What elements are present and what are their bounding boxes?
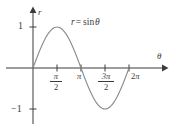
x-tick-label-two-pi-symbol: π	[135, 71, 139, 81]
sine-curve-figure: r θ 1 −1 r=sin θ π 2 π 3π 2 2π	[0, 0, 176, 130]
x-axis-label: θ	[157, 52, 161, 61]
x-tick-label-half-pi-numerator: π	[50, 72, 62, 81]
x-tick-label-two-pi: 2π	[131, 72, 140, 81]
x-axis-arrowhead	[162, 65, 169, 72]
x-tick-label-half-pi: π 2	[50, 72, 62, 92]
x-axis	[6, 65, 169, 72]
x-tick-label-three-half-pi-numerator: 3π	[98, 72, 114, 81]
equation-argument: θ	[95, 17, 100, 27]
y-axis	[30, 7, 37, 125]
x-tick-label-half-pi-denominator: 2	[50, 83, 62, 92]
y-axis-label: r	[38, 8, 42, 17]
y-axis-arrowhead	[30, 7, 37, 14]
x-tick-label-three-half-pi: 3π 2	[98, 72, 114, 92]
equation-function: sin	[82, 17, 94, 27]
x-tick-label-pi: π	[77, 72, 81, 81]
equation-operator: =	[75, 17, 82, 27]
y-tick-label-one: 1	[18, 21, 23, 31]
y-tick-label-negative-one: −1	[11, 104, 22, 114]
equation-annotation: r=sin θ	[71, 18, 100, 28]
x-tick-label-three-half-pi-denominator: 2	[98, 83, 114, 92]
